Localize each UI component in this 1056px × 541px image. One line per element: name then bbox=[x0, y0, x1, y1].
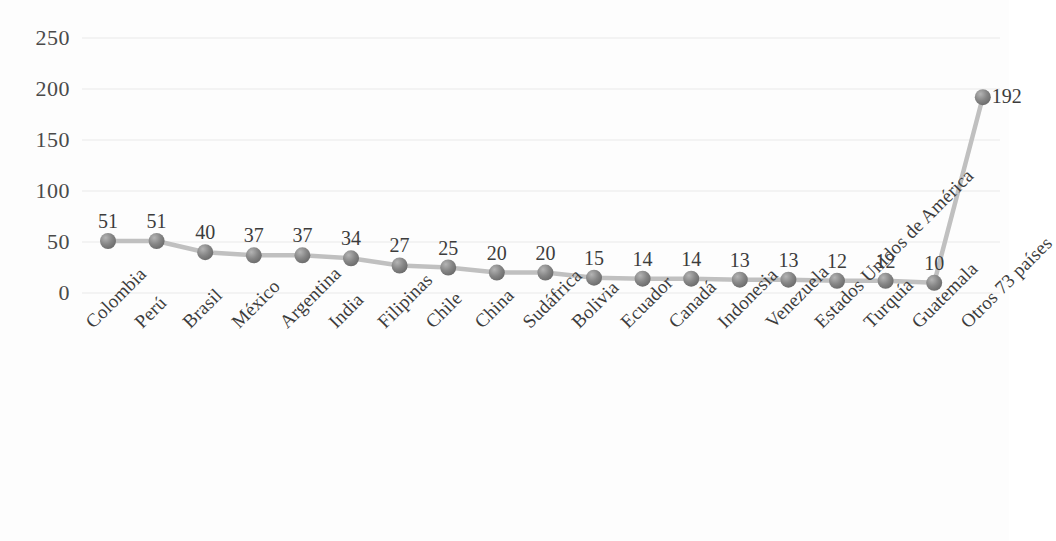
data-value-label: 27 bbox=[390, 235, 410, 255]
y-axis-tick-label: 200 bbox=[36, 78, 71, 100]
y-axis-tick-label: 250 bbox=[36, 27, 71, 49]
data-value-label: 15 bbox=[584, 248, 604, 268]
data-point-marker[interactable] bbox=[246, 247, 262, 263]
y-axis-tick-label: 100 bbox=[36, 180, 71, 202]
data-value-label: 37 bbox=[244, 225, 264, 245]
data-point-marker[interactable] bbox=[343, 250, 359, 266]
data-value-label: 20 bbox=[535, 243, 555, 263]
data-value-label: 14 bbox=[633, 249, 653, 269]
data-point-marker[interactable] bbox=[975, 89, 991, 105]
data-value-label: 192 bbox=[992, 86, 1022, 106]
data-point-marker[interactable] bbox=[294, 247, 310, 263]
y-axis-tick-label: 150 bbox=[36, 129, 71, 151]
data-value-label: 51 bbox=[147, 211, 167, 231]
data-value-label: 12 bbox=[827, 251, 847, 271]
data-value-label: 40 bbox=[195, 222, 215, 242]
data-value-label: 13 bbox=[730, 250, 750, 270]
data-point-marker[interactable] bbox=[100, 233, 116, 249]
data-point-marker[interactable] bbox=[489, 265, 505, 281]
data-value-label: 25 bbox=[438, 238, 458, 258]
data-point-marker[interactable] bbox=[537, 265, 553, 281]
data-point-marker[interactable] bbox=[149, 233, 165, 249]
data-value-label: 13 bbox=[778, 250, 798, 270]
data-value-label: 34 bbox=[341, 228, 361, 248]
data-value-label: 37 bbox=[292, 225, 312, 245]
data-value-label: 20 bbox=[487, 243, 507, 263]
data-point-marker[interactable] bbox=[440, 260, 456, 276]
y-axis-tick-label: 50 bbox=[47, 231, 70, 253]
data-value-label: 14 bbox=[681, 249, 701, 269]
data-point-marker[interactable] bbox=[392, 258, 408, 274]
data-point-marker[interactable] bbox=[197, 244, 213, 260]
y-axis-tick-label: 0 bbox=[59, 282, 71, 304]
data-value-label: 10 bbox=[924, 253, 944, 273]
data-value-label: 51 bbox=[98, 211, 118, 231]
